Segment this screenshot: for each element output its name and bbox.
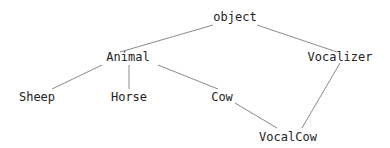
node-vocalizer: Vocalizer [307, 50, 372, 64]
node-animal: Animal [106, 50, 149, 64]
edge-object-animal [120, 25, 213, 52]
edge-vocalizer-vocalcow [302, 63, 340, 128]
node-vocalcow: VocalCow [259, 130, 318, 144]
edge-animal-cow [158, 65, 218, 89]
node-horse: Horse [111, 90, 147, 104]
edge-object-vocalizer [257, 25, 337, 52]
node-cow: Cow [211, 90, 233, 104]
node-sheep: Sheep [19, 90, 55, 104]
edge-cow-vocalcow [235, 103, 277, 128]
class-hierarchy-diagram: object Animal Vocalizer Sheep Horse Cow … [0, 0, 390, 148]
edges [52, 25, 340, 128]
edge-animal-sheep [52, 65, 102, 89]
node-object: object [213, 10, 256, 24]
